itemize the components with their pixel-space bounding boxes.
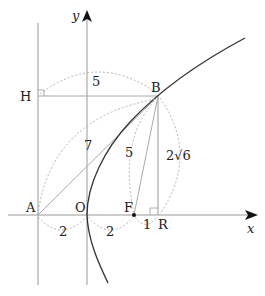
length-label-FR: 1 xyxy=(143,217,151,232)
point-label-O: O xyxy=(75,200,86,215)
length-label-AO: 2 xyxy=(59,224,67,239)
right-angle-R-icon xyxy=(150,208,158,215)
length-label-HB: 5 xyxy=(92,74,100,89)
point-label-B: B xyxy=(151,80,161,95)
parabola-diagram: y x H B A O F R 5 7 5 2√6 2 2 1 xyxy=(0,0,265,296)
y-axis-label: y xyxy=(71,8,80,23)
length-label-AB: 7 xyxy=(84,138,92,153)
point-label-R: R xyxy=(158,217,169,232)
segment-AB xyxy=(38,96,158,215)
length-label-FB: 5 xyxy=(125,145,133,160)
point-label-A: A xyxy=(25,200,36,215)
x-axis-label: x xyxy=(247,221,255,236)
length-label-BR: 2√6 xyxy=(166,148,191,163)
length-label-OF: 2 xyxy=(106,224,114,239)
point-label-H: H xyxy=(20,89,31,104)
point-label-F: F xyxy=(124,200,133,215)
